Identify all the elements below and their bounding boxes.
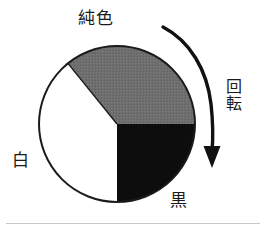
disc-icon: [0, 0, 266, 229]
label-pure-color: 純色: [78, 10, 113, 28]
baseline-rule: [6, 223, 260, 224]
label-black: 黒: [170, 192, 188, 210]
label-rotation: 回転: [222, 78, 241, 111]
clockwise-arrow-head-icon: [204, 146, 221, 168]
color-wheel-rotation-figure: 純色 白 黒 回転: [0, 0, 266, 229]
label-white: 白: [12, 152, 30, 170]
